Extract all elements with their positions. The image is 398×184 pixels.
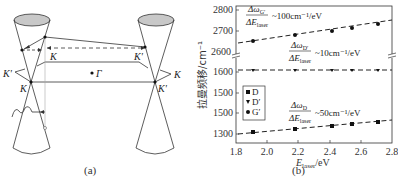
raman-shift-chart: 2800 2700 2600 1600 1500 1500 1300 拉曼频移/… — [195, 0, 398, 184]
k-label-left-top: K — [49, 51, 58, 62]
k-prime-label-right-bottom: K′ — [157, 83, 168, 94]
svg-text:~10cm⁻¹/eV: ~10cm⁻¹/eV — [315, 48, 361, 58]
x-tick-label: 2.4 — [324, 146, 337, 157]
svg-text:~50cm⁻¹/eV: ~50cm⁻¹/eV — [315, 108, 361, 118]
y-tick-label: 2800 — [213, 4, 233, 15]
scattering-paths — [12, 35, 157, 129]
panel-a-caption: (a) — [84, 164, 96, 176]
k-label-right-mid: K — [173, 69, 182, 80]
annotation-g-prime: ΔωG′ ΔElaser ~100cm⁻¹/eV — [245, 4, 323, 28]
y-tick-label: 2600 — [211, 46, 231, 57]
series-d-prime — [238, 69, 392, 72]
annotation-d: ΔωD ΔElaser ~50cm⁻¹/eV — [288, 100, 361, 124]
y-tick-label: 2700 — [213, 25, 233, 36]
k-label-left-bottom: K — [19, 83, 28, 94]
svg-text:ΔωD′: ΔωD′ — [290, 40, 309, 51]
x-tick-label: 2.6 — [355, 146, 368, 157]
k-prime-label-right-top: K′ — [133, 51, 144, 62]
x-axis — [267, 140, 361, 143]
legend: D D′ G′ — [243, 86, 265, 120]
legend-circle-marker — [246, 110, 250, 114]
y-axis-label: 拉曼频移/cm⁻¹ — [196, 41, 208, 109]
axis-break-right — [388, 53, 396, 58]
legend-square-marker — [246, 90, 250, 94]
series-d — [238, 120, 392, 134]
left-dirac-cone — [13, 14, 50, 154]
dirac-cone-svg: Γ K K′ K K′ K K′ — [0, 0, 200, 184]
annotation-d-prime: ΔωD′ ΔElaser ~10cm⁻¹/eV — [288, 40, 361, 64]
right-dirac-cone — [136, 14, 174, 154]
x-tick-label: 2.8 — [386, 146, 398, 157]
svg-text:ΔElaser: ΔElaser — [288, 113, 311, 124]
y-tick-label: 1600 — [213, 66, 233, 77]
legend-item-g-prime: G′ — [252, 107, 260, 117]
y-axis — [236, 10, 239, 134]
y-tick-label: 1500 — [213, 87, 233, 98]
y-tick-label: 1300 — [213, 128, 233, 139]
gamma-point — [90, 71, 93, 74]
legend-item-d-prime: D′ — [252, 97, 260, 107]
x-tick-label: 1.8 — [230, 146, 243, 157]
svg-text:~100cm⁻¹/eV: ~100cm⁻¹/eV — [272, 11, 323, 21]
chart-svg: 2800 2700 2600 1600 1500 1500 1300 拉曼频移/… — [195, 0, 398, 184]
x-tick-label: 2.2 — [292, 146, 305, 157]
svg-text:ΔωD: ΔωD — [290, 100, 308, 111]
svg-text:ΔElaser: ΔElaser — [288, 53, 311, 64]
x-tick-label: 2.0 — [261, 146, 274, 157]
axis-break-left — [232, 53, 240, 58]
svg-text:ΔωG′: ΔωG′ — [247, 4, 266, 15]
y-tick-label: 1500 — [213, 107, 233, 118]
dirac-cone-diagram: Γ K K′ K K′ K K′ (a) — [0, 0, 200, 184]
svg-text:ΔElaser: ΔElaser — [245, 17, 268, 28]
gamma-label: Γ — [95, 68, 102, 79]
panel-b-caption: (b) — [292, 164, 305, 176]
legend-item-d: D — [252, 87, 259, 97]
k-prime-label-left-mid: K′ — [2, 68, 13, 79]
